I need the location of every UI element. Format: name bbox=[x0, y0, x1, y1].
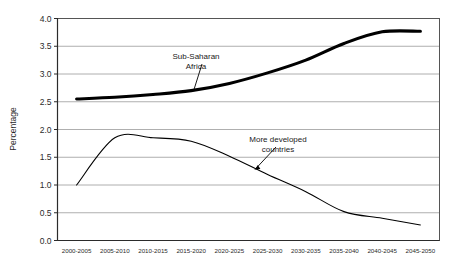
y-tick-label: 3.5 bbox=[40, 41, 52, 51]
y-axis-title: Percentage bbox=[8, 107, 18, 151]
x-tick-label: 2015-2020 bbox=[176, 247, 206, 254]
chart-container: 0.00.51.01.52.02.53.03.54.0 2000-2005200… bbox=[0, 0, 458, 267]
y-tick-label: 3.0 bbox=[40, 69, 52, 79]
x-tick-label: 2045-2050 bbox=[406, 247, 436, 254]
x-tick-label: 2005-2010 bbox=[100, 247, 130, 254]
x-tick-label: 2025-2030 bbox=[253, 247, 283, 254]
y-tick-label: 0.0 bbox=[40, 236, 52, 246]
y-tick-label: 2.5 bbox=[40, 97, 52, 107]
annotation-label: Sub-Saharan bbox=[172, 52, 219, 61]
x-tick-label: 2040-2045 bbox=[367, 247, 397, 254]
y-tick-label: 1.5 bbox=[40, 152, 52, 162]
y-tick-label: 0.5 bbox=[40, 208, 52, 218]
annotation-label: More developed bbox=[249, 135, 306, 144]
x-tick-label: 2020-2025 bbox=[215, 247, 245, 254]
line-chart: 0.00.51.01.52.02.53.03.54.0 2000-2005200… bbox=[0, 0, 458, 267]
annotation-label: countries bbox=[262, 145, 294, 154]
y-tick-label: 1.0 bbox=[40, 180, 52, 190]
chart-background bbox=[0, 0, 458, 267]
x-tick-label: 2030-2035 bbox=[291, 247, 321, 254]
x-tick-label: 2000-2005 bbox=[62, 247, 92, 254]
x-tick-label: 2035-2040 bbox=[329, 247, 359, 254]
annotation-label: Africa bbox=[186, 62, 207, 71]
y-tick-labels-group: 0.00.51.01.52.02.53.03.54.0 bbox=[40, 14, 52, 246]
x-tick-label: 2010-2015 bbox=[138, 247, 168, 254]
y-tick-label: 4.0 bbox=[40, 14, 52, 24]
y-tick-label: 2.0 bbox=[40, 125, 52, 135]
